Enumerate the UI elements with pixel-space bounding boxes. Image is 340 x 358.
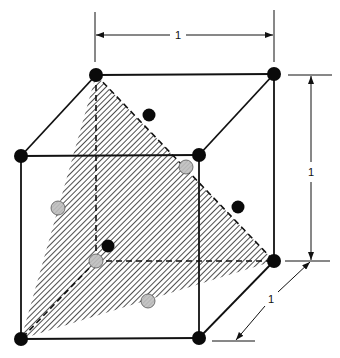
atom-top-back-left bbox=[89, 68, 103, 82]
atom-top-front-left bbox=[14, 149, 28, 163]
depth-label: 1 bbox=[268, 293, 274, 305]
atom-bottom-back-right bbox=[267, 254, 281, 268]
atom-bottom-front-left bbox=[14, 332, 28, 346]
atom-top-front-right bbox=[192, 148, 206, 162]
atom-top-back-right bbox=[267, 67, 281, 81]
gray-atom-bottom-face bbox=[141, 294, 155, 308]
depth-arrow-down bbox=[236, 306, 265, 340]
atom-back-face-center bbox=[102, 240, 115, 253]
edge-top-right bbox=[199, 74, 274, 155]
gray-atom-front-face bbox=[179, 160, 193, 174]
depth-arrow-up bbox=[278, 262, 310, 292]
gray-atom-left-face bbox=[51, 201, 65, 215]
atom-bottom-front-right bbox=[192, 331, 206, 345]
width-label: 1 bbox=[175, 29, 181, 41]
edge-bottom-front bbox=[21, 338, 199, 339]
edge-top-back bbox=[96, 74, 274, 75]
atom-top-face-center bbox=[143, 109, 156, 122]
fcc-unit-cell-diagram: 1 1 1 bbox=[0, 0, 340, 358]
gray-atom-hidden-corner bbox=[89, 254, 103, 268]
atom-right-face-center bbox=[232, 201, 245, 214]
height-label: 1 bbox=[308, 166, 314, 178]
edge-top-front bbox=[21, 155, 199, 156]
